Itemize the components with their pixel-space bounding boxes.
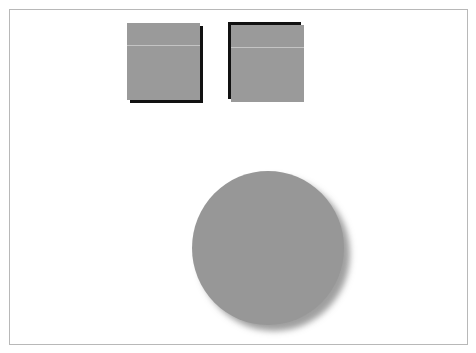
- circle-soft-shadow: [192, 171, 344, 325]
- square-shadow-bottom-right: [127, 23, 200, 100]
- highlight-line: [231, 47, 304, 48]
- square-shadow-top-left: [231, 25, 304, 102]
- highlight-line: [127, 45, 200, 46]
